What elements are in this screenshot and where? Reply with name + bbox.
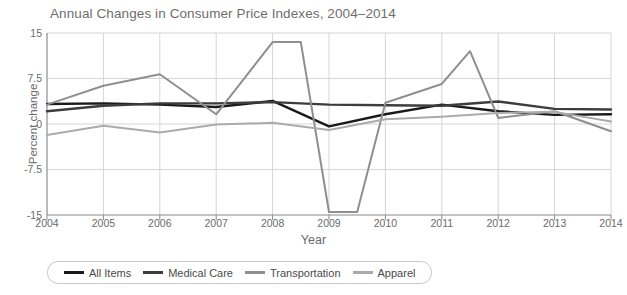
legend-item-all-items[interactable]: All Items bbox=[64, 267, 131, 279]
legend-swatch-icon bbox=[245, 271, 265, 274]
legend-label: Medical Care bbox=[168, 267, 233, 279]
x-axis-tick-2005: 2005 bbox=[81, 217, 125, 229]
x-axis-title: Year bbox=[0, 233, 627, 247]
x-axis-tick-2010: 2010 bbox=[363, 217, 407, 229]
x-axis-tick-2004: 2004 bbox=[25, 217, 69, 229]
x-axis-tick-2014: 2014 bbox=[589, 217, 627, 229]
x-axis-tick-2009: 2009 bbox=[307, 217, 351, 229]
x-axis-tick-2007: 2007 bbox=[194, 217, 238, 229]
legend-label: All Items bbox=[89, 267, 131, 279]
legend-swatch-icon bbox=[353, 271, 373, 274]
legend-swatch-icon bbox=[143, 271, 163, 274]
legend-swatch-icon bbox=[64, 271, 84, 274]
chart-container: Annual Changes in Consumer Price Indexes… bbox=[0, 0, 627, 295]
chart-legend: All ItemsMedical CareTransportationAppar… bbox=[47, 261, 432, 284]
legend-item-medical-care[interactable]: Medical Care bbox=[143, 267, 233, 279]
legend-label: Transportation bbox=[270, 267, 341, 279]
plot-area bbox=[0, 0, 627, 295]
x-axis-tick-2006: 2006 bbox=[138, 217, 182, 229]
x-axis-tick-2012: 2012 bbox=[476, 217, 520, 229]
x-axis-tick-2013: 2013 bbox=[533, 217, 577, 229]
legend-label: Apparel bbox=[378, 267, 416, 279]
x-axis-tick-2008: 2008 bbox=[251, 217, 295, 229]
x-axis-tick-2011: 2011 bbox=[420, 217, 464, 229]
legend-item-transportation[interactable]: Transportation bbox=[245, 267, 341, 279]
legend-item-apparel[interactable]: Apparel bbox=[353, 267, 416, 279]
